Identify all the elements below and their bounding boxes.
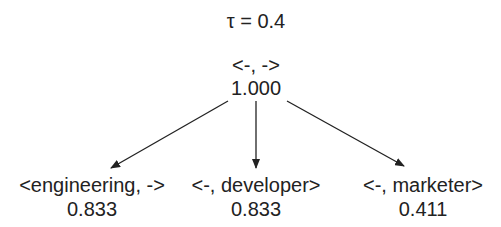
child-node-score: 0.833 <box>231 198 281 220</box>
child-node-score: 0.411 <box>399 198 448 220</box>
edge-root-to-engineering <box>111 101 228 168</box>
child-node-label: <engineering, -> <box>19 174 165 196</box>
child-node-label: <-, marketer> <box>363 174 483 196</box>
edge-root-to-marketer <box>287 101 404 166</box>
child-node-score: 0.833 <box>67 198 117 220</box>
child-node-label: <-, developer> <box>192 174 321 196</box>
